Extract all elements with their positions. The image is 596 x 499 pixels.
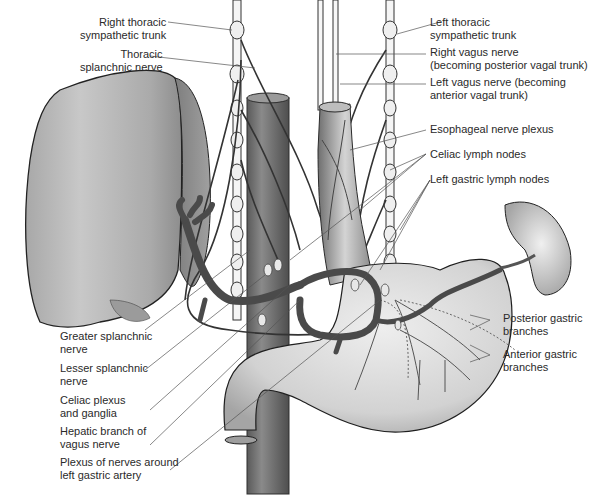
- label-hepatic-branch: Hepatic branch of vagus nerve: [60, 425, 146, 451]
- label-line: sympathetic trunk: [80, 29, 166, 42]
- label-line: nerve: [60, 343, 152, 356]
- label-esophageal-nerve-plexus: Esophageal nerve plexus: [430, 123, 554, 136]
- label-line: branches: [503, 361, 577, 374]
- label-lesser-splanchnic-nerve: Lesser splanchnic nerve: [60, 362, 148, 388]
- spleen: [500, 202, 571, 295]
- label-anterior-gastric-branches: Anterior gastric branches: [503, 348, 577, 374]
- label-line: Hepatic branch of: [60, 425, 146, 438]
- label-right-thoracic-sympathetic-trunk: Right thoracic sympathetic trunk: [80, 16, 166, 42]
- label-left-vagus-nerve: Left vagus nerve (becoming anterior vaga…: [430, 76, 566, 102]
- label-line: branches: [503, 325, 582, 338]
- label-line: anterior vagal trunk): [430, 89, 566, 102]
- label-line: Left vagus nerve (becoming: [430, 76, 566, 89]
- label-right-vagus-nerve: Right vagus nerve (becoming posterior va…: [430, 46, 588, 72]
- label-line: left gastric artery: [60, 469, 179, 482]
- label-left-thoracic-sympathetic-trunk: Left thoracic sympathetic trunk: [430, 16, 516, 42]
- label-line: Right vagus nerve: [430, 46, 588, 59]
- label-line: Thoracic: [80, 48, 163, 61]
- label-line: Plexus of nerves around: [60, 456, 179, 469]
- label-line: sympathetic trunk: [430, 29, 516, 42]
- label-line: and ganglia: [60, 407, 125, 420]
- label-line: splanchnic nerve: [80, 61, 163, 74]
- label-celiac-plexus: Celiac plexus and ganglia: [60, 394, 125, 420]
- vagus-nerves: [318, 0, 338, 110]
- label-greater-splanchnic-nerve: Greater splanchnic nerve: [60, 330, 152, 356]
- label-line: nerve: [60, 375, 148, 388]
- label-line: Left gastric lymph nodes: [430, 173, 549, 186]
- label-posterior-gastric-branches: Posterior gastric branches: [503, 312, 582, 338]
- label-line: Celiac lymph nodes: [430, 148, 526, 161]
- label-line: Greater splanchnic: [60, 330, 152, 343]
- label-thoracic-splanchnic-nerve: Thoracic splanchnic nerve: [80, 48, 163, 74]
- label-line: Posterior gastric: [503, 312, 582, 325]
- label-line: Right thoracic: [80, 16, 166, 29]
- label-left-gastric-lymph-nodes: Left gastric lymph nodes: [430, 173, 549, 186]
- label-line: Left thoracic: [430, 16, 516, 29]
- label-line: Anterior gastric: [503, 348, 577, 361]
- label-line: Lesser splanchnic: [60, 362, 148, 375]
- label-celiac-lymph-nodes: Celiac lymph nodes: [430, 148, 526, 161]
- label-line: vagus nerve: [60, 438, 146, 451]
- label-line: Esophageal nerve plexus: [430, 123, 554, 136]
- diagram-stage: Right thoracic sympathetic trunk Thoraci…: [0, 0, 596, 499]
- label-plexus-left-gastric-artery: Plexus of nerves around left gastric art…: [60, 456, 179, 482]
- label-line: (becoming posterior vagal trunk): [430, 59, 588, 72]
- label-line: Celiac plexus: [60, 394, 125, 407]
